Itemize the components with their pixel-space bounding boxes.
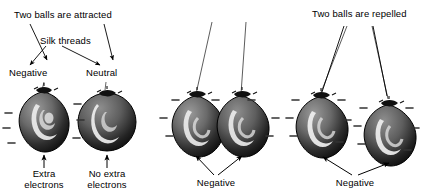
label-extra-electrons-line2: electrons: [24, 180, 63, 191]
ball-negative-right-left: [296, 88, 348, 158]
caption-two-balls-repelled: Two balls are repelled: [312, 9, 407, 20]
ball-neutral-right: [78, 86, 136, 151]
caption-two-balls-attracted: Two balls are attracted: [14, 10, 112, 21]
label-negative-right: Negative: [336, 178, 374, 189]
panel3-callout-arrows: [323, 157, 389, 175]
figure-canvas: Two balls are attracted Silk threads Neg…: [0, 0, 429, 195]
panel1-bottom-arrows: [44, 155, 107, 168]
label-negative-left: Negative: [9, 68, 47, 79]
diagram-vector-layer: [0, 0, 429, 195]
panel3-silk-threads: [320, 26, 388, 99]
ball-negative-left: [19, 83, 69, 152]
panel2-silk-threads: [196, 22, 246, 94]
label-negative-middle: Negative: [197, 178, 235, 189]
ball-negative-right-right: [364, 96, 416, 166]
minus-signs-negative-ball: [3, 104, 84, 143]
panel1-silk-threads: [42, 82, 106, 90]
label-neutral-right: Neutral: [86, 68, 117, 79]
label-no-extra-electrons-line1: No extra: [89, 169, 126, 180]
minus-signs-panel2: [160, 100, 279, 136]
ball-negative-mid-right: [217, 87, 269, 157]
ball-negative-mid-left: [172, 87, 224, 157]
label-silk-threads: Silk threads: [40, 36, 91, 47]
label-extra-electrons-line1: Extra: [33, 169, 56, 180]
minus-signs-panel3: [286, 100, 419, 150]
label-no-extra-electrons-line2: electrons: [87, 180, 126, 191]
panel3-caption-arrows: [322, 26, 387, 96]
panel2-callout-arrows: [196, 156, 242, 175]
